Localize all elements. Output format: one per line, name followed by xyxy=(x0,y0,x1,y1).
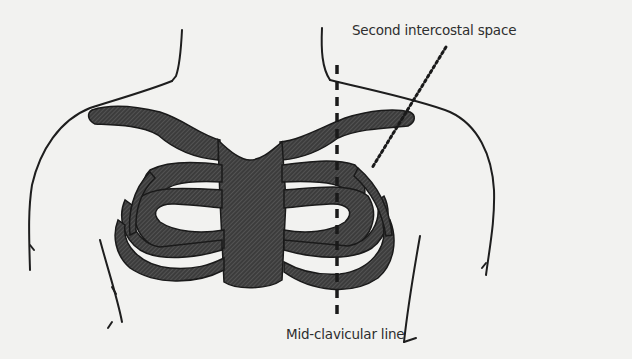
mid-clavicular-line-label: Mid-clavicular line xyxy=(286,326,404,342)
second-intercostal-space-label: Second intercostal space xyxy=(352,22,516,38)
sternum xyxy=(218,140,286,288)
chest-anatomy-diagram: Second intercostal space Mid-clavicular … xyxy=(0,0,632,359)
left-clavicle xyxy=(89,106,220,160)
right-clavicle xyxy=(280,110,414,160)
chest-illustration xyxy=(0,0,632,359)
rib-cage xyxy=(89,106,415,289)
